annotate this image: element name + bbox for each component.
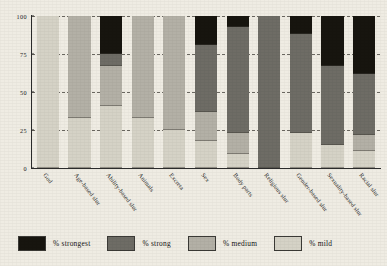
- bar-religious-slur[interactable]: [258, 16, 280, 168]
- bar-age-based-slur[interactable]: [68, 16, 90, 168]
- bar-body-parts[interactable]: [227, 16, 249, 168]
- bar-excreta[interactable]: [163, 16, 185, 168]
- segment-strong[interactable]: [100, 54, 122, 66]
- y-tick-label-50: 50: [20, 89, 27, 96]
- bar-sex[interactable]: [195, 16, 217, 168]
- bar-ability-based-slur[interactable]: [100, 16, 122, 168]
- legend-label: % strong: [142, 239, 170, 248]
- segment-medium[interactable]: [353, 135, 375, 152]
- legend-item-strongest[interactable]: % strongest: [18, 236, 90, 251]
- legend-label: % medium: [223, 239, 257, 248]
- plot-area: [32, 16, 380, 168]
- segment-strongest[interactable]: [100, 16, 122, 54]
- segment-strongest[interactable]: [321, 16, 343, 66]
- x-label-sex: Sex: [200, 172, 211, 183]
- segment-mild[interactable]: [163, 130, 185, 168]
- segment-medium[interactable]: [227, 133, 249, 154]
- segment-medium[interactable]: [100, 66, 122, 106]
- segment-mild[interactable]: [353, 151, 375, 168]
- segment-strongest[interactable]: [227, 16, 249, 27]
- legend-swatch-icon: [188, 236, 216, 251]
- x-axis-category-labels: GodAge-based slurAbility-based slurAnima…: [32, 170, 380, 226]
- segment-medium[interactable]: [163, 16, 185, 130]
- x-label-animals: Animals: [137, 172, 155, 193]
- segment-medium[interactable]: [132, 16, 154, 118]
- legend-item-mild[interactable]: % mild: [274, 236, 332, 251]
- segment-strong[interactable]: [227, 27, 249, 133]
- legend-label: % mild: [309, 239, 332, 248]
- y-tick-label-0: 0: [24, 165, 28, 172]
- y-tick-label-100: 100: [17, 13, 27, 20]
- x-label-sexuality-based-slur: Sexuality-based slur: [327, 172, 364, 217]
- x-label-god: God: [42, 172, 53, 184]
- x-label-age-based-slur: Age-based slur: [74, 172, 103, 206]
- segment-medium[interactable]: [195, 112, 217, 141]
- legend-item-strong[interactable]: % strong: [107, 236, 170, 251]
- y-axis-tick-labels: 100 75 50 25 0: [0, 16, 27, 168]
- segment-strong[interactable]: [353, 74, 375, 135]
- bar-sexuality-based-slur[interactable]: [321, 16, 343, 168]
- bar-gender-based-slur[interactable]: [290, 16, 312, 168]
- segment-mild[interactable]: [37, 16, 59, 168]
- legend-swatch-icon: [274, 236, 302, 251]
- segment-mild[interactable]: [132, 118, 154, 168]
- legend-swatch-icon: [18, 236, 46, 251]
- segment-mild[interactable]: [321, 145, 343, 168]
- stacked-bar-chart: 100 75 50 25 0 GodAge-based slurAbility-…: [0, 0, 387, 266]
- segment-mild[interactable]: [100, 106, 122, 168]
- bar-group: [32, 16, 380, 168]
- x-label-excreta: Excreta: [169, 172, 186, 191]
- segment-strong[interactable]: [290, 34, 312, 133]
- bar-animals[interactable]: [132, 16, 154, 168]
- segment-strongest[interactable]: [195, 16, 217, 45]
- segment-strong[interactable]: [195, 45, 217, 112]
- x-axis-line: [31, 168, 381, 169]
- segment-mild[interactable]: [195, 141, 217, 168]
- segment-mild[interactable]: [227, 154, 249, 168]
- x-label-gender-based-slur: Gender-based slur: [295, 172, 329, 213]
- x-label-religious-slur: Religious slur: [263, 172, 290, 204]
- segment-strong[interactable]: [258, 16, 280, 168]
- segment-medium[interactable]: [68, 16, 90, 118]
- legend-item-medium[interactable]: % medium: [188, 236, 257, 251]
- segment-mild[interactable]: [290, 133, 312, 168]
- segment-mild[interactable]: [68, 118, 90, 168]
- y-tick-label-25: 25: [20, 127, 27, 134]
- bar-god[interactable]: [37, 16, 59, 168]
- segment-strongest[interactable]: [290, 16, 312, 34]
- y-tick-label-75: 75: [20, 51, 27, 58]
- segment-strongest[interactable]: [353, 16, 375, 74]
- bar-racial-slur[interactable]: [353, 16, 375, 168]
- x-label-body-parts: Body parts: [232, 172, 254, 198]
- chart-legend: % strongest% strong% medium% mild: [18, 234, 369, 252]
- x-label-racial-slur: Racial slur: [358, 172, 380, 198]
- x-label-ability-based-slur: Ability-based slur: [105, 172, 138, 212]
- segment-strong[interactable]: [321, 66, 343, 145]
- legend-swatch-icon: [107, 236, 135, 251]
- legend-label: % strongest: [53, 239, 90, 248]
